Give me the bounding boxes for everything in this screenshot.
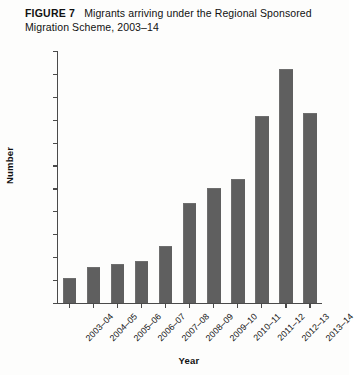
y-axis-title: Number (4, 136, 15, 196)
x-axis-title: Year (56, 355, 322, 366)
